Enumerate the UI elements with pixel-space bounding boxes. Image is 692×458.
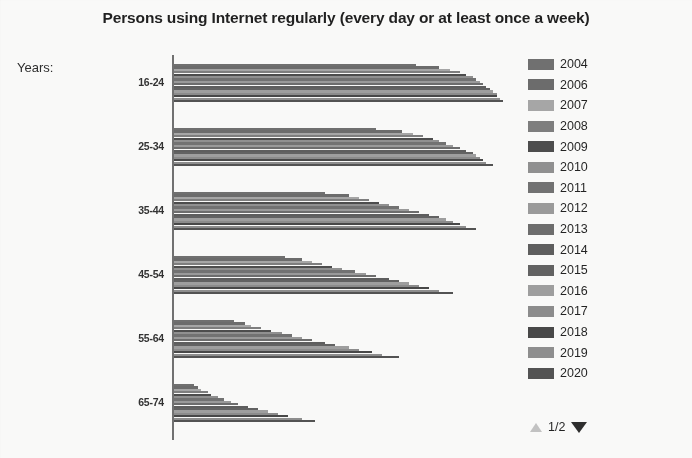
- legend-item[interactable]: 2006: [528, 75, 678, 96]
- legend-item[interactable]: 2012: [528, 198, 678, 219]
- bar-cluster: [174, 128, 510, 166]
- category-label: 45-54: [138, 268, 164, 280]
- bar[interactable]: [174, 420, 315, 422]
- legend-item[interactable]: 2010: [528, 157, 678, 178]
- legend-label: 2016: [560, 284, 588, 298]
- bar[interactable]: [174, 164, 493, 166]
- legend-label: 2013: [560, 222, 588, 236]
- legend-item[interactable]: 2020: [528, 363, 678, 384]
- category-label: 35-44: [138, 204, 164, 216]
- category-label: 55-64: [138, 332, 164, 344]
- legend-swatch: [528, 244, 554, 255]
- legend-label: 2010: [560, 160, 588, 174]
- plot-area: [172, 55, 522, 440]
- legend-swatch: [528, 59, 554, 70]
- legend-swatch: [528, 203, 554, 214]
- axis-group-label: Years:: [17, 60, 53, 75]
- legend-pager[interactable]: 1/2: [530, 420, 587, 434]
- legend-swatch: [528, 368, 554, 379]
- legend-swatch: [528, 327, 554, 338]
- bar[interactable]: [174, 228, 476, 230]
- legend-swatch: [528, 79, 554, 90]
- legend-label: 2012: [560, 201, 588, 215]
- legend-item[interactable]: 2015: [528, 260, 678, 281]
- legend-label: 2015: [560, 263, 588, 277]
- bar-cluster: [174, 192, 510, 230]
- legend-label: 2007: [560, 98, 588, 112]
- legend-item[interactable]: 2016: [528, 281, 678, 302]
- page-title: Persons using Internet regularly (every …: [0, 9, 692, 27]
- legend-item[interactable]: 2017: [528, 301, 678, 322]
- legend-label: 2008: [560, 119, 588, 133]
- legend: 2004200620072008200920102011201220132014…: [528, 54, 678, 384]
- bar-cluster: [174, 384, 510, 422]
- legend-label: 2018: [560, 325, 588, 339]
- legend-item[interactable]: 2004: [528, 54, 678, 75]
- legend-item[interactable]: 2014: [528, 239, 678, 260]
- legend-label: 2011: [560, 181, 587, 195]
- legend-item[interactable]: 2019: [528, 342, 678, 363]
- legend-label: 2020: [560, 366, 588, 380]
- bar-cluster: [174, 320, 510, 358]
- legend-item[interactable]: 2013: [528, 219, 678, 240]
- legend-label: 2017: [560, 304, 588, 318]
- legend-swatch: [528, 182, 554, 193]
- triangle-up-icon[interactable]: [530, 423, 542, 432]
- legend-page-indicator: 1/2: [548, 420, 565, 434]
- bar[interactable]: [174, 356, 399, 358]
- category-label: 16-24: [138, 76, 164, 88]
- bar[interactable]: [174, 292, 453, 294]
- legend-item[interactable]: 2007: [528, 95, 678, 116]
- bar-cluster: [174, 64, 510, 102]
- legend-label: 2009: [560, 140, 588, 154]
- legend-swatch: [528, 100, 554, 111]
- legend-swatch: [528, 224, 554, 235]
- bar-cluster: [174, 256, 510, 294]
- legend-swatch: [528, 141, 554, 152]
- legend-label: 2006: [560, 78, 588, 92]
- legend-swatch: [528, 306, 554, 317]
- category-label: 65-74: [138, 396, 164, 408]
- value-axis-line: [172, 55, 174, 440]
- legend-swatch: [528, 285, 554, 296]
- triangle-down-icon[interactable]: [571, 422, 587, 433]
- legend-swatch: [528, 347, 554, 358]
- legend-item[interactable]: 2008: [528, 116, 678, 137]
- legend-item[interactable]: 2018: [528, 322, 678, 343]
- legend-label: 2004: [560, 57, 588, 71]
- legend-label: 2019: [560, 346, 588, 360]
- category-label: 25-34: [138, 140, 164, 152]
- category-axis-labels: 16-2425-3435-4445-5455-6465-74: [60, 55, 164, 440]
- legend-item[interactable]: 2009: [528, 136, 678, 157]
- legend-swatch: [528, 162, 554, 173]
- chart-screenshot: Persons using Internet regularly (every …: [0, 0, 692, 458]
- legend-swatch: [528, 265, 554, 276]
- bar[interactable]: [174, 100, 503, 102]
- legend-swatch: [528, 121, 554, 132]
- legend-label: 2014: [560, 243, 588, 257]
- legend-item[interactable]: 2011: [528, 178, 678, 199]
